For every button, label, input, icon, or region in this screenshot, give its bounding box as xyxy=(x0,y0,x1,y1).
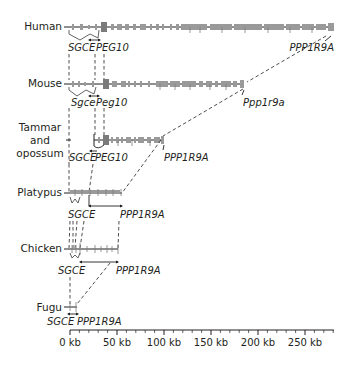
gene-label-human-ppp1r9a: PPP1R9A xyxy=(289,42,334,53)
species-label-tammar: Tammar xyxy=(18,121,62,133)
species-label-fugu: Fugu xyxy=(37,301,62,313)
species-label-chicken: Chicken xyxy=(21,242,63,254)
track-fugu: Fugu SGCE PPP1R9A xyxy=(37,301,122,327)
scale-label-200: 200 kb xyxy=(241,337,275,348)
orthology-connectors-3 xyxy=(69,140,161,193)
gene-label-platypus-ppp1r9a: PPP1R9A xyxy=(120,209,165,220)
gene-label-fugu-ppp1r9a: PPP1R9A xyxy=(77,316,122,327)
scale-minor-ticks xyxy=(70,330,333,335)
gene-label-mouse-sgce: Sgce xyxy=(71,97,95,108)
species-label-and: and xyxy=(30,134,50,146)
track-tammar-opossum: Tammar and opossum SGCE PEG10 PPP1R9A xyxy=(16,121,208,163)
gene-label-tammar-sgce: SGCE xyxy=(69,152,97,163)
gene-label-tammar-peg10: PEG10 xyxy=(95,152,128,163)
gene-label-platypus-sgce: SGCE xyxy=(68,209,96,220)
exon-block-platypus xyxy=(70,190,120,194)
scale-label-250: 250 kb xyxy=(288,337,322,348)
exon-marks-tammar xyxy=(98,135,164,146)
species-label-human: Human xyxy=(24,20,62,32)
scale-label-150: 150 kb xyxy=(194,337,228,348)
gene-label-fugu-sgce: SGCE xyxy=(47,316,75,327)
gene-label-tammar-ppp1r9a: PPP1R9A xyxy=(164,152,209,163)
gene-label-human-peg10: PEG10 xyxy=(96,42,129,53)
synteny-diagram: Human xyxy=(0,0,354,365)
sgce-splice-chicken xyxy=(70,253,80,258)
exon-marks-human xyxy=(72,22,334,33)
scale-bar: 0 kb 50 kb 100 kb 150 kb 200 kb 250 kb xyxy=(59,330,334,348)
gene-label-mouse-peg10: Peg10 xyxy=(96,97,127,108)
sgce-splice-platypus xyxy=(70,197,80,203)
gene-label-human-sgce: SGCE xyxy=(68,42,96,53)
species-label-mouse: Mouse xyxy=(28,77,62,89)
scale-label-100: 100 kb xyxy=(147,337,181,348)
track-chicken: Chicken SGCE PPP1R9A xyxy=(21,242,161,276)
gene-label-mouse-ppp1r9a: Ppp1r9a xyxy=(243,97,285,108)
peg10-splice-tammar xyxy=(94,145,104,148)
gene-label-chicken-sgce: SGCE xyxy=(58,265,86,276)
species-label-platypus: Platypus xyxy=(17,186,62,198)
scale-label-0: 0 kb xyxy=(59,337,81,348)
scale-label-50: 50 kb xyxy=(103,337,131,348)
orthology-connectors-4 xyxy=(69,221,119,248)
species-label-opossum: opossum xyxy=(16,147,63,159)
track-mouse: Mouse xyxy=(28,77,285,108)
gene-label-chicken-ppp1r9a: PPP1R9A xyxy=(116,265,161,276)
sgce-splice-human xyxy=(69,30,99,40)
sgce-splice-mouse xyxy=(69,87,96,96)
track-human: Human xyxy=(24,20,334,53)
track-platypus: Platypus SGCE PPP1R9A xyxy=(17,186,165,220)
